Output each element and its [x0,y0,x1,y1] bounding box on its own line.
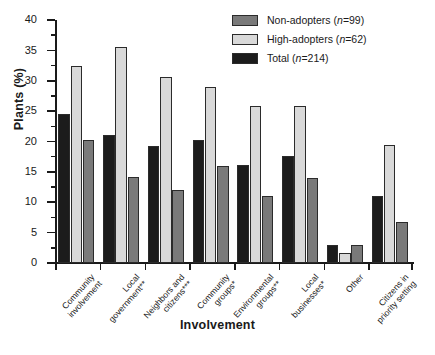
y-tick-5: 5 [47,232,55,234]
bar [327,245,339,263]
bar [217,166,229,263]
y-minor-tick [51,247,56,248]
x-tick [411,263,413,270]
y-tick-label-40: 40 [11,13,37,25]
y-tick-label-5: 5 [11,226,37,238]
bar [237,165,249,263]
y-tick-label-35: 35 [11,44,37,56]
bar [205,87,217,263]
x-tick [55,263,57,270]
legend-item: Total (n=214) [232,50,428,66]
bar [262,196,274,263]
bar [396,222,408,263]
x-axis-title: Involvement [0,318,435,332]
y-minor-tick [51,126,56,127]
bar [372,196,384,263]
legend-label: Non-adopters (n=99) [267,14,364,26]
legend-label: Total (n=214) [267,52,329,64]
y-tick-label-25: 25 [11,104,37,116]
y-minor-tick [51,34,56,35]
x-axis-ticks [55,263,414,271]
bar [282,156,294,263]
x-axis-labels: Community involvementLocal government**N… [55,272,414,350]
x-tick [279,263,281,270]
bar [172,190,184,263]
x-tick [189,263,191,270]
y-tick-15: 15 [47,171,55,173]
bar [128,177,140,263]
y-tick-label-15: 15 [11,165,37,177]
y-tick-label-30: 30 [11,74,37,86]
bar [71,66,83,263]
y-tick-label-20: 20 [11,135,37,147]
bar [351,245,363,263]
bar [160,77,172,263]
y-tick-40: 40 [47,19,55,21]
y-tick-label-10: 10 [11,195,37,207]
bar-chart: Plants (%) 0510152025303540 Community in… [0,0,435,355]
legend-item: High-adopters (n=62) [232,31,428,47]
bar [384,145,396,263]
legend-label: High-adopters (n=62) [267,33,367,45]
bar [339,253,351,263]
y-minor-tick [51,156,56,157]
bar [250,106,262,263]
bar [307,178,319,263]
chart-legend: Non-adopters (n=99)High-adopters (n=62)T… [232,12,428,69]
bar [148,146,160,263]
legend-swatch-icon [232,15,258,26]
bar [58,114,70,263]
bar [115,47,127,263]
legend-swatch-icon [232,34,258,45]
y-tick-25: 25 [47,110,55,112]
legend-swatch-icon [232,53,258,64]
y-minor-tick [51,95,56,96]
x-tick [145,263,147,270]
y-minor-tick [51,217,56,218]
x-tick [100,263,102,270]
y-tick-0: 0 [47,262,55,264]
bar [193,140,205,263]
y-tick-20: 20 [47,141,55,143]
y-tick-label-0: 0 [11,256,37,268]
y-tick-35: 35 [47,50,55,52]
y-minor-tick [51,186,56,187]
y-minor-tick [51,65,56,66]
bar [83,140,95,263]
bar [294,106,306,263]
x-tick [324,263,326,270]
y-tick-30: 30 [47,80,55,82]
bar [103,135,115,263]
x-tick [234,263,236,270]
legend-item: Non-adopters (n=99) [232,12,428,28]
y-tick-10: 10 [47,201,55,203]
x-tick [368,263,370,270]
